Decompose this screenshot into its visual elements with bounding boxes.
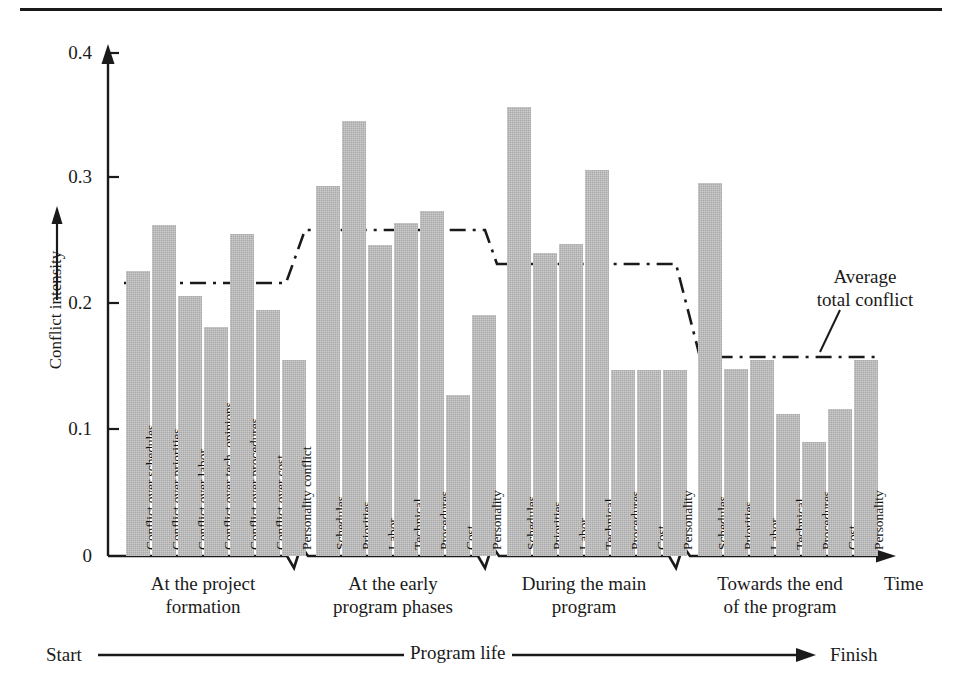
x-axis-title: Time [884,573,923,595]
bar-g2-3 [368,245,392,556]
group-caption-1-line1: At the project [118,572,288,595]
group-caption-3-line2: program [499,595,669,618]
y-tick-label-0.3: 0.3 [46,167,92,186]
annotation-line1: Average [790,265,940,288]
group-caption-3-line1: During the main [499,572,669,595]
flow-finish-label: Finish [824,644,884,666]
group-caption-4-line1: Towards the end [690,572,870,595]
group-caption-4-line2: of the program [690,595,870,618]
bar-label-g3-7: Personality [681,490,695,550]
group-caption-1: At the project formation [118,572,288,618]
average-total-conflict-annotation: Average total conflict [790,265,940,311]
flow-middle-label: Program life [404,642,512,664]
group-caption-4: Towards the end of the program [690,572,870,618]
bar-label-g1-7: Personality conflict [300,447,314,550]
group-caption-2: At the early program phases [308,572,478,618]
y-axis [102,44,120,556]
flow-start-label: Start [40,644,88,666]
bar-g3-3 [559,244,583,556]
bar-g3-1 [507,107,531,556]
y-tick-label-0.4: 0.4 [46,43,92,62]
y-tick-label-0: 0 [46,546,92,565]
group-caption-2-line1: At the early [308,572,478,595]
bar-label-g2-7: Personality [490,490,504,550]
annotation-leader-line [820,310,840,352]
annotation-line2: total conflict [790,288,940,311]
chart-plot-area: 0.4 0.3 0.2 0.1 0 Conflict intensity Con… [0,0,960,690]
bar-label-g4-7: Personality [872,490,886,550]
group-caption-2-line2: program phases [308,595,478,618]
group-caption-1-line2: formation [118,595,288,618]
conflict-intensity-figure: 0.4 0.3 0.2 0.1 0 Conflict intensity Con… [0,0,960,690]
group-caption-3: During the main program [499,572,669,618]
y-axis-title: Conflict intensity [46,190,66,430]
bar-g2-2 [342,121,366,556]
